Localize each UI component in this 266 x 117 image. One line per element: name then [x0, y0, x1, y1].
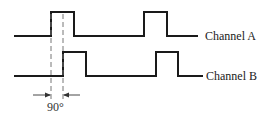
arrow-right-icon	[45, 93, 51, 98]
channel-a-waveform	[14, 12, 198, 36]
channel-b-label: Channel B	[206, 69, 257, 83]
channel-b-waveform	[14, 52, 203, 76]
channel-a-label: Channel A	[205, 29, 256, 43]
timing-diagram: Channel A Channel B 90°	[0, 0, 266, 117]
phase-shift-label: 90°	[47, 100, 64, 114]
arrow-left-icon	[63, 93, 69, 98]
phase-dimension-arrows	[33, 93, 80, 98]
